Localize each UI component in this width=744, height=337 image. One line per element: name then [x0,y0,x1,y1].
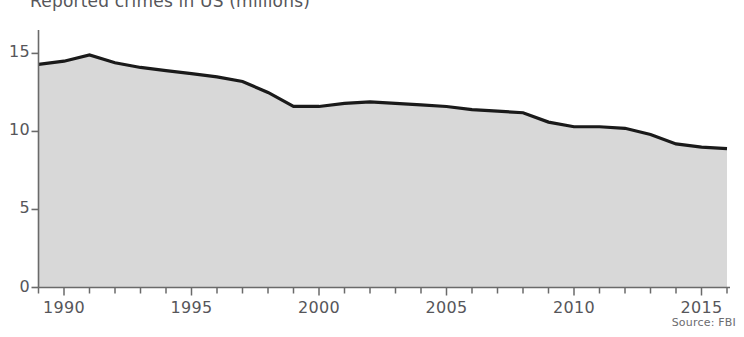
y-tick-label: 10 [0,120,30,139]
x-axis-ticks [39,288,728,296]
y-tick-label: 15 [0,42,30,61]
x-tick-label: 2010 [539,298,609,317]
x-tick-label: 2000 [284,298,354,317]
area-series [39,55,728,288]
x-tick-label: 1995 [157,298,227,317]
x-tick-label: 1990 [29,298,99,317]
y-tick-label: 0 [0,277,30,296]
chart-figure: Reported crimes in US (millions) 051015 … [0,0,744,337]
x-tick-label: 2015 [667,298,737,317]
x-tick-label: 2005 [412,298,482,317]
area-fill-path [39,55,728,288]
source-note: Source: FBI [672,316,736,329]
area-chart-plot [0,0,744,337]
y-tick-label: 5 [0,198,30,217]
y-axis-ticks [32,53,39,287]
